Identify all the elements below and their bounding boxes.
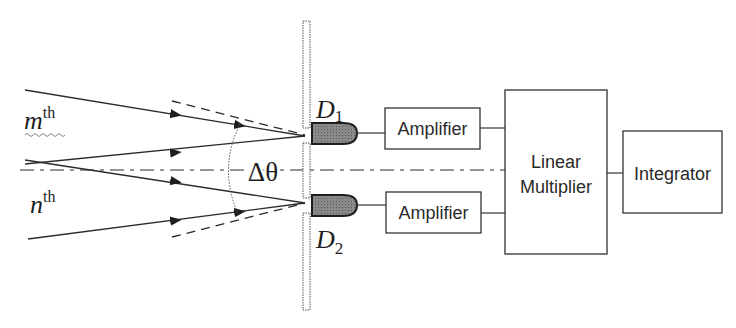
angle-arc bbox=[228, 124, 240, 214]
linear-multiplier-block: Linear Multiplier bbox=[505, 90, 607, 254]
amplifier-1-block: Amplifier bbox=[385, 108, 480, 149]
m-order-rays bbox=[25, 90, 305, 164]
m-order-label: mth bbox=[24, 104, 55, 135]
n-order-label: nth bbox=[30, 188, 55, 219]
integrator-label: Integrator bbox=[634, 164, 711, 184]
d2-label: D2 bbox=[315, 225, 343, 258]
n-order-base: n bbox=[30, 190, 43, 219]
detector-d2 bbox=[312, 195, 357, 216]
m-order-sup: th bbox=[43, 104, 55, 121]
amplifier-2-block: Amplifier bbox=[386, 192, 481, 233]
d2-sub: 2 bbox=[335, 239, 344, 258]
integrator-block: Integrator bbox=[623, 131, 722, 213]
multiplier-label-line1: Linear bbox=[531, 152, 581, 172]
n-order-sup: th bbox=[43, 188, 55, 205]
d1-sub: 1 bbox=[335, 107, 344, 126]
d1-label: D1 bbox=[315, 95, 343, 126]
m-order-base: m bbox=[24, 106, 43, 135]
delta-theta-label: Δθ bbox=[248, 157, 278, 187]
d1-base: D bbox=[315, 95, 335, 124]
amplifier-1-label: Amplifier bbox=[397, 119, 467, 139]
n-dashed-ray bbox=[172, 203, 305, 237]
amplifier-2-label: Amplifier bbox=[398, 203, 468, 223]
interferometer-diagram: Amplifier Amplifier Linear Multiplier In… bbox=[0, 0, 736, 328]
d2-base: D bbox=[315, 225, 335, 254]
detector-d1 bbox=[312, 123, 357, 144]
multiplier-label-line2: Multiplier bbox=[520, 177, 592, 197]
slit-plate bbox=[303, 21, 310, 310]
